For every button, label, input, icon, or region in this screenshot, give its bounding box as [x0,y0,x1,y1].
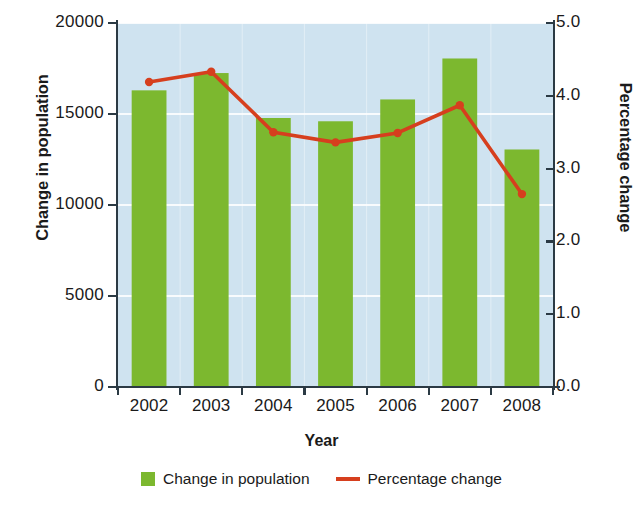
y-axis-right-tickmark [546,313,555,315]
line-data-point [207,68,215,76]
line-data-point [145,78,153,86]
legend-item-label: Change in population [163,470,310,488]
y-axis-right-tick-label: 2.0 [556,230,581,250]
bar [132,90,167,387]
y-axis-left-tickmark [108,204,117,206]
y-axis-right-tick-label: 4.0 [556,85,581,105]
line-data-point [393,129,401,137]
y-axis-right-tickmark [546,95,555,97]
x-axis-tick-label: 2005 [306,396,366,416]
plot-graphics [118,23,553,387]
x-axis-tick-label: 2002 [119,396,179,416]
y-axis-left-tick-label: 0 [94,376,104,396]
x-axis-tick-label: 2006 [368,396,428,416]
bar [256,118,291,387]
x-axis-tickmark [179,386,181,395]
x-axis-tickmark [490,386,492,395]
bar [318,121,353,387]
plot-area [118,23,553,387]
legend-item[interactable]: Percentage change [336,470,502,488]
right-axis-spine [553,20,555,390]
x-axis-tickmark [428,386,430,395]
legend-square-icon [141,472,155,486]
y-axis-left-tick-label: 15000 [55,103,104,123]
chart-figure: Change in population Percentage change Y… [0,0,643,512]
y-axis-right-tickmark [546,240,555,242]
line-data-point [269,128,277,136]
y-axis-right-tick-label: 1.0 [556,303,581,323]
bar [194,73,229,387]
chart-legend: Change in populationPercentage change [0,470,643,488]
y-axis-left-tick-label: 20000 [55,12,104,32]
x-axis-tickmark [366,386,368,395]
y-axis-right-ticks: 0.01.02.03.04.05.0 [556,0,643,512]
y-axis-left-tickmark [108,386,117,388]
line-data-point [456,101,464,109]
x-axis-tick-label: 2004 [243,396,303,416]
y-axis-left-tick-label: 5000 [65,285,104,305]
x-axis-ticks: 2002200320042005200620072008 [118,396,553,426]
line-data-point [518,190,526,198]
y-axis-right-tickmark [546,168,555,170]
legend-item[interactable]: Change in population [141,470,310,488]
y-axis-left-ticks: 05000100001500020000 [8,0,108,512]
y-axis-right-tick-label: 5.0 [556,12,581,32]
y-axis-left-tick-label: 10000 [55,194,104,214]
x-axis-tickmark [117,386,119,395]
x-axis-tick-label: 2003 [181,396,241,416]
y-axis-left-tickmark [108,22,117,24]
x-axis-tick-label: 2007 [430,396,490,416]
bar [505,149,540,387]
bottom-axis-spine [110,386,560,388]
legend-item-label: Percentage change [368,470,502,488]
legend-line-icon [336,477,360,480]
x-axis-tickmark [552,386,554,395]
y-axis-left-tickmark [108,113,117,115]
y-axis-right-tick-label: 3.0 [556,158,581,178]
x-axis-tickmark [241,386,243,395]
x-axis-tickmark [303,386,305,395]
bar [380,99,415,387]
x-axis-tick-label: 2008 [492,396,552,416]
y-axis-right-tickmark [546,22,555,24]
line-data-point [331,138,339,146]
y-axis-left-tickmark [108,295,117,297]
